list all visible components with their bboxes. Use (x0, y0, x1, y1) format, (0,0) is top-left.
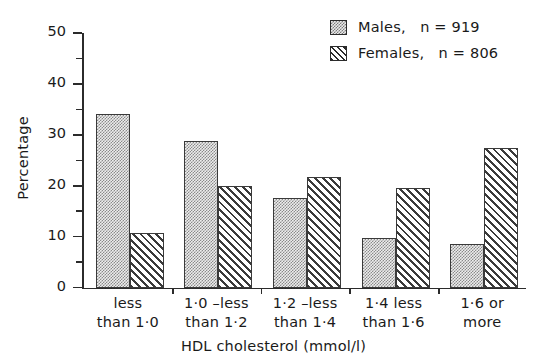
bar-females (396, 188, 430, 288)
bar-males (273, 198, 307, 288)
bar-females (130, 233, 164, 288)
x-tick-label: 1·6 or more (430, 294, 535, 332)
x-tick-major (349, 288, 351, 294)
y-tick-major (73, 236, 82, 238)
bar-chart: Males, n = 919 Females, n = 806 01020304… (0, 0, 547, 363)
bar-males (362, 238, 396, 288)
y-tick-label: 0 (36, 278, 66, 294)
y-tick-major (73, 32, 82, 34)
y-tick-minor (76, 261, 82, 263)
y-tick-minor (76, 58, 82, 60)
y-tick-label: 10 (36, 227, 66, 243)
y-tick-label: 50 (36, 23, 66, 39)
x-tick-major (438, 288, 440, 294)
y-tick-label: 30 (36, 125, 66, 141)
bar-group (450, 33, 518, 288)
bar-group (96, 33, 164, 288)
y-tick-minor (76, 210, 82, 212)
y-tick-label: 40 (36, 74, 66, 90)
bar-females (218, 186, 252, 287)
y-tick-minor (76, 109, 82, 111)
bar-males (450, 244, 484, 288)
x-tick-major (261, 288, 263, 294)
y-tick-major (73, 287, 82, 289)
y-tick-major (73, 134, 82, 136)
y-tick-minor (76, 160, 82, 162)
bar-females (484, 148, 518, 288)
y-tick-label: 20 (36, 176, 66, 192)
bar-group (184, 33, 252, 288)
y-tick-major (73, 83, 82, 85)
bar-males (184, 141, 218, 288)
bar-group (273, 33, 341, 288)
x-tick-major (172, 288, 174, 294)
x-axis-title: HDL cholesterol (mmol/l) (0, 338, 547, 354)
y-tick-major (73, 185, 82, 187)
bar-males (96, 114, 130, 287)
bar-females (307, 177, 341, 287)
y-axis-title: Percentage (15, 73, 31, 243)
bar-group (362, 33, 430, 288)
x-axis-line (82, 288, 526, 290)
plot-area (84, 33, 527, 288)
